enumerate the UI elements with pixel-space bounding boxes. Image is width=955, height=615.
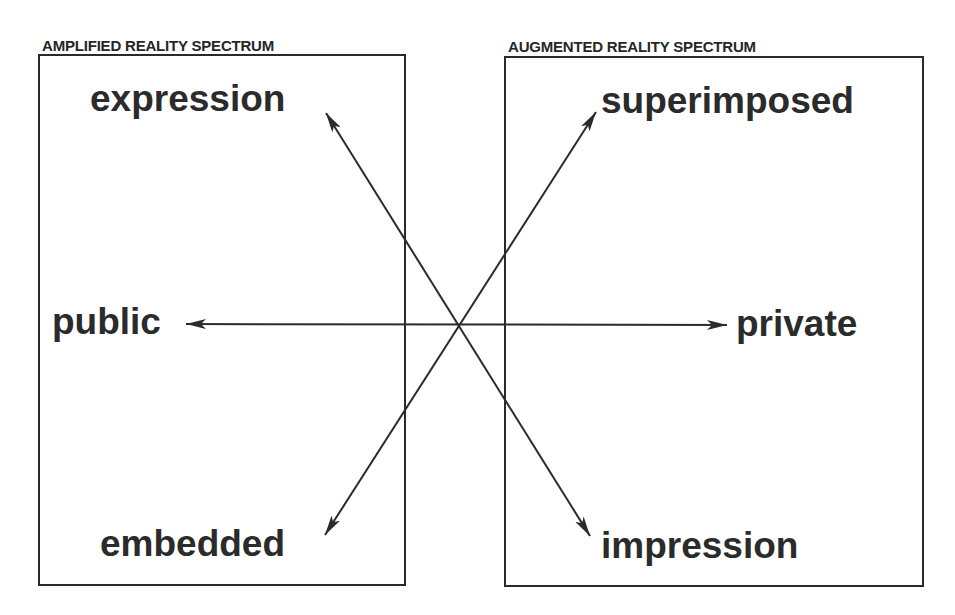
public-private-arrow — [186, 324, 727, 325]
term-superimposed: superimposed — [601, 82, 854, 119]
spectrum-diagram: AMPLIFIED REALITY SPECTRUM AUGMENTED REA… — [0, 0, 955, 615]
term-private: private — [736, 305, 857, 342]
term-embedded: embedded — [100, 525, 285, 562]
term-impression: impression — [601, 527, 798, 564]
term-public: public — [52, 303, 161, 340]
term-expression: expression — [90, 80, 285, 117]
